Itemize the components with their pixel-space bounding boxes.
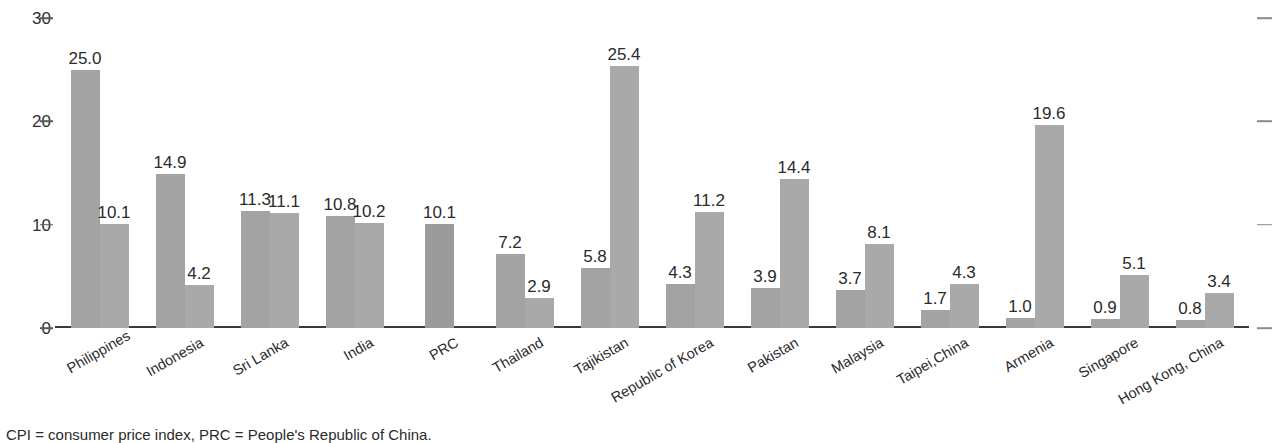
bar[interactable]: 11.1 — [270, 213, 299, 328]
bar-value-label: 3.4 — [1207, 273, 1231, 290]
bar[interactable]: 0.9 — [1091, 319, 1120, 328]
bar[interactable]: 10.2 — [355, 223, 384, 328]
bar[interactable]: 19.6 — [1035, 125, 1064, 328]
y-axis-tick-mark — [40, 327, 53, 329]
bar[interactable]: 10.1 — [425, 224, 454, 328]
bar-slot: 11.1 — [270, 18, 299, 328]
bar-value-label: 25.4 — [607, 46, 640, 63]
bar[interactable]: 11.3 — [241, 211, 270, 328]
x-axis-category-labels: PhilippinesIndonesiaSri LankaIndiaPRCTha… — [57, 331, 1247, 421]
bar-group-bars: 25.010.1 — [57, 18, 142, 328]
bar-slot: 5.8 — [581, 18, 610, 328]
bar-group-bars: 3.914.4 — [737, 18, 822, 328]
bar-group-bars: 10.810.2 — [312, 18, 397, 328]
bar-value-label: 11.1 — [268, 193, 300, 210]
bar[interactable]: 11.2 — [695, 212, 724, 328]
y-axis-tick-mark — [40, 17, 53, 19]
bar-value-label: 10.2 — [352, 203, 385, 220]
y-axis-tick-mark — [40, 224, 53, 226]
bar[interactable]: 3.7 — [836, 290, 865, 328]
bar-group: 0.95.1 — [1077, 18, 1162, 328]
bar[interactable]: 1.0 — [1006, 318, 1035, 328]
bar-slot: 11.3 — [241, 18, 270, 328]
bar-group-bars: 14.94.2 — [142, 18, 227, 328]
bar-value-label: 3.9 — [753, 268, 777, 285]
y-axis-tick-mark — [40, 121, 53, 123]
bar-group: 5.825.4 — [567, 18, 652, 328]
bar[interactable]: 25.4 — [610, 66, 639, 328]
bar[interactable]: 10.1 — [100, 224, 129, 328]
bar[interactable]: 4.2 — [185, 285, 214, 328]
bar-group: 1.74.3 — [907, 18, 992, 328]
bar-slot: 3.4 — [1205, 18, 1234, 328]
bar-slot: 4.2 — [185, 18, 214, 328]
bar[interactable]: 3.4 — [1205, 293, 1234, 328]
plot-area: 0102030 25.010.114.94.211.311.110.810.21… — [57, 18, 1247, 328]
bar-slot: 1.7 — [921, 18, 950, 328]
bar-group-bars: 7.22.9 — [482, 18, 567, 328]
bar-slot: 10.8 — [326, 18, 355, 328]
bar-value-label: 0.9 — [1093, 299, 1117, 316]
bar[interactable]: 10.8 — [326, 216, 355, 328]
bar-value-label: 10.1 — [423, 204, 456, 221]
bar-slot: 11.2 — [695, 18, 724, 328]
bar-group: 10.1 — [397, 18, 482, 328]
bar-value-label: 19.6 — [1032, 105, 1065, 122]
bar-group-bars: 1.019.6 — [992, 18, 1077, 328]
bar-value-label: 1.7 — [923, 290, 947, 307]
bar-value-label: 2.9 — [527, 278, 551, 295]
bar-group-bars: 4.311.2 — [652, 18, 737, 328]
bar-slot: 4.3 — [666, 18, 695, 328]
bar-value-label: 5.8 — [583, 248, 607, 265]
bar[interactable]: 5.1 — [1120, 275, 1149, 328]
bar[interactable]: 14.4 — [780, 179, 809, 328]
bar-value-label: 1.0 — [1008, 298, 1032, 315]
bar-group: 3.914.4 — [737, 18, 822, 328]
chart-footnote: CPI = consumer price index, PRC = People… — [6, 426, 432, 443]
bar[interactable]: 8.1 — [865, 244, 894, 328]
bar[interactable]: 4.3 — [950, 284, 979, 328]
bar[interactable]: 5.8 — [581, 268, 610, 328]
bar-group: 7.22.9 — [482, 18, 567, 328]
bar-group: 14.94.2 — [142, 18, 227, 328]
bar-slot: 25.0 — [71, 18, 100, 328]
bar[interactable]: 0.8 — [1176, 320, 1205, 328]
bar-slot: 0.8 — [1176, 18, 1205, 328]
x-axis-label: Philippines — [65, 335, 121, 376]
bar-slot: 2.9 — [525, 18, 554, 328]
bar[interactable]: 3.9 — [751, 288, 780, 328]
bar-value-label: 14.4 — [777, 159, 810, 176]
bar-slot: 14.4 — [780, 18, 809, 328]
bar-group-bars: 0.83.4 — [1162, 18, 1247, 328]
bar-slot: 5.1 — [1120, 18, 1149, 328]
bar-value-label: 10.1 — [97, 204, 130, 221]
bar-group-bars: 1.74.3 — [907, 18, 992, 328]
bar-group: 10.810.2 — [312, 18, 397, 328]
bar[interactable]: 25.0 — [71, 70, 100, 328]
bar-value-label: 3.7 — [838, 270, 862, 287]
bar-group-bars: 5.825.4 — [567, 18, 652, 328]
bar-group-bars: 10.1 — [397, 18, 482, 328]
bar-slot: 4.3 — [950, 18, 979, 328]
bar-value-label: 4.3 — [952, 264, 976, 281]
bar-group: 1.019.6 — [992, 18, 1077, 328]
bar-value-label: 8.1 — [867, 224, 891, 241]
bar-slot: 19.6 — [1035, 18, 1064, 328]
y-axis-right-tick-mark — [1257, 327, 1272, 329]
bar-group: 4.311.2 — [652, 18, 737, 328]
bar[interactable]: 4.3 — [666, 284, 695, 328]
bar[interactable]: 14.9 — [156, 174, 185, 328]
bar-group: 11.311.1 — [227, 18, 312, 328]
bar-value-label: 11.3 — [239, 191, 271, 208]
bar-slot: 3.9 — [751, 18, 780, 328]
bar-value-label: 4.3 — [668, 264, 692, 281]
bar-slot: 7.2 — [496, 18, 525, 328]
bar-value-label: 5.1 — [1122, 255, 1146, 272]
bar-group-bars: 3.78.1 — [822, 18, 907, 328]
bar-slot: 0.9 — [1091, 18, 1120, 328]
bar-slot: 10.2 — [355, 18, 384, 328]
bar[interactable]: 2.9 — [525, 298, 554, 328]
bar[interactable]: 1.7 — [921, 310, 950, 328]
bar[interactable]: 7.2 — [496, 254, 525, 328]
bar-slot: 8.1 — [865, 18, 894, 328]
